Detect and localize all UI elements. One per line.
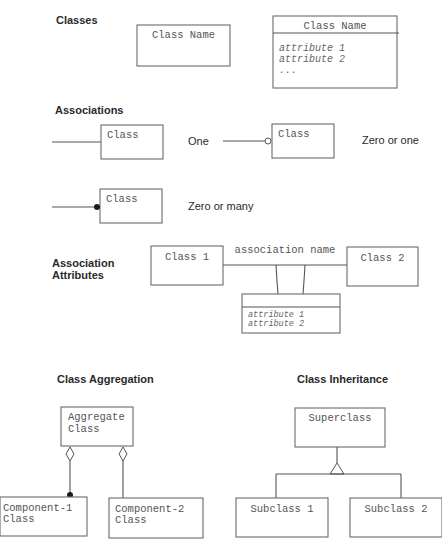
link-attribute-box: attribute 1 attribute 2 xyxy=(242,294,340,333)
class-name: Class 2 xyxy=(360,252,404,264)
attribute-ellipsis: ... xyxy=(279,65,297,76)
section-title-association-attributes-line2: Attributes xyxy=(52,269,104,281)
component2-class-box: Component-2 Class xyxy=(109,498,203,538)
association-one: Class One xyxy=(52,125,209,159)
detailed-class-box: Class Name attribute 1 attribute 2 ... xyxy=(273,16,399,88)
aggregate-class-box: Aggregate Class xyxy=(61,407,133,446)
class-label: Class xyxy=(106,193,138,205)
section-title-classes: Classes xyxy=(56,14,98,26)
class-name-line1: Aggregate xyxy=(68,411,125,423)
section-class-aggregation: Class Aggregation Aggregate Class Compon… xyxy=(0,373,203,538)
section-title-association-attributes-line1: Association xyxy=(52,257,115,269)
association-zero-or-many: Class Zero or many xyxy=(52,189,254,223)
class1-box: Class 1 xyxy=(151,246,223,285)
class-name-line2: Class xyxy=(3,513,35,525)
class-name: Class Name xyxy=(152,29,215,41)
component1-class-box: Component-1 Class xyxy=(0,497,87,536)
attribute-item: attribute 1 xyxy=(279,43,345,54)
class-name: Class Name xyxy=(303,20,366,32)
attribute-item: attribute 2 xyxy=(248,319,304,329)
class2-box: Class 2 xyxy=(347,247,418,286)
section-classes: Classes Class Name Class Name attribute … xyxy=(56,14,399,88)
attribute-item: attribute 2 xyxy=(279,54,345,65)
association-zero-or-one: Class Zero or one xyxy=(223,124,419,158)
link-connector-right xyxy=(303,265,305,294)
aggregation-diamond-icon xyxy=(66,447,74,461)
generalization-triangle-icon xyxy=(330,463,344,474)
section-class-inheritance: Class Inheritance Superclass Subclass 1 … xyxy=(236,373,442,537)
class-name: Subclass 1 xyxy=(250,503,313,515)
subclass1-box: Subclass 1 xyxy=(236,498,328,537)
hollow-circle-icon xyxy=(265,138,271,144)
superclass-box: Superclass xyxy=(295,408,385,447)
section-association-attributes: Association Attributes Class 1 associati… xyxy=(52,244,418,333)
subclass2-box: Subclass 2 xyxy=(350,498,442,537)
section-title-associations: Associations xyxy=(55,104,123,116)
multiplicity-label: Zero or one xyxy=(362,134,419,146)
class-label: Class xyxy=(107,129,139,141)
class-name: Class 1 xyxy=(165,251,209,263)
association-name: association name xyxy=(235,244,336,256)
section-associations: Associations Class One Class Zero or one… xyxy=(52,104,419,223)
section-title-class-aggregation: Class Aggregation xyxy=(57,373,154,385)
link-connector-left xyxy=(276,265,278,294)
class-name: Superclass xyxy=(308,412,371,424)
section-title-class-inheritance: Class Inheritance xyxy=(297,373,388,385)
multiplicity-label: One xyxy=(188,135,209,147)
class-name-line2: Class xyxy=(68,423,100,435)
simple-class-box: Class Name xyxy=(137,25,230,66)
class-name-line2: Class xyxy=(115,514,147,526)
uml-notation-diagram: Classes Class Name Class Name attribute … xyxy=(0,0,442,544)
class-label: Class xyxy=(278,128,310,140)
multiplicity-label: Zero or many xyxy=(188,200,254,212)
class-name: Subclass 2 xyxy=(364,503,427,515)
aggregation-diamond-icon xyxy=(119,447,127,461)
filled-circle-icon xyxy=(94,204,100,210)
